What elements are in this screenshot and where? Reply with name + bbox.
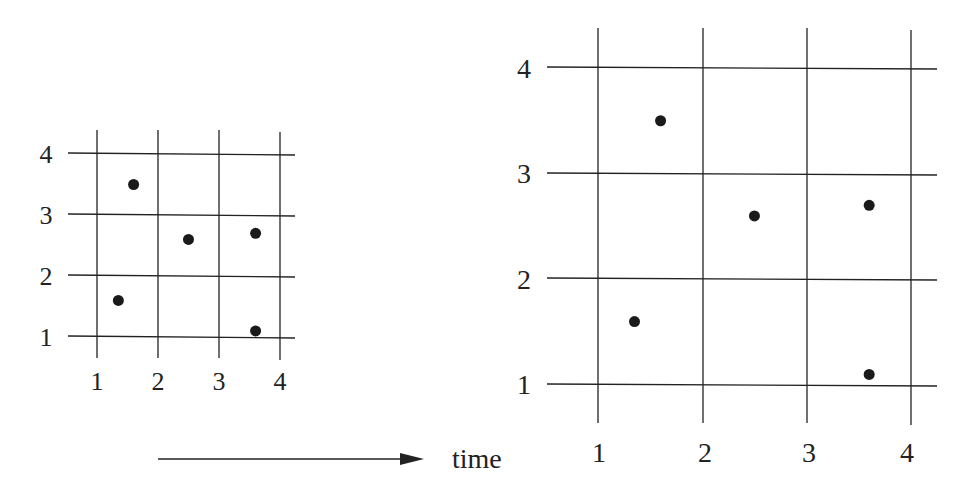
x-tick-label: 2 bbox=[152, 367, 165, 396]
y-tick-label: 1 bbox=[517, 369, 531, 400]
data-point bbox=[864, 369, 875, 380]
x-tick-label: 1 bbox=[91, 367, 104, 396]
y-tick-label: 2 bbox=[40, 262, 53, 291]
x-tick-label: 4 bbox=[900, 437, 914, 468]
data-point bbox=[128, 179, 139, 190]
data-point bbox=[183, 234, 194, 245]
small-grid-vertical-lines bbox=[97, 130, 280, 360]
data-point bbox=[250, 325, 261, 336]
time-label: time bbox=[452, 443, 502, 474]
x-tick-label: 3 bbox=[213, 367, 226, 396]
time-arrow: time bbox=[158, 443, 502, 474]
data-point bbox=[250, 228, 261, 239]
arrow-head-icon bbox=[400, 453, 424, 465]
large-grid-points bbox=[629, 115, 875, 380]
x-tick-label: 3 bbox=[802, 437, 816, 468]
data-point bbox=[655, 115, 666, 126]
y-tick-label: 3 bbox=[517, 158, 531, 189]
small-grid-x-ticks: 1 2 3 4 bbox=[91, 367, 287, 396]
x-tick-label: 1 bbox=[592, 437, 606, 468]
time-scaling-diagram: 4 3 2 1 1 2 3 4 4 3 2 1 bbox=[0, 0, 973, 491]
small-grid-panel: 4 3 2 1 1 2 3 4 bbox=[40, 130, 296, 396]
y-tick-label: 2 bbox=[517, 264, 531, 295]
small-grid-points bbox=[113, 179, 261, 336]
data-point bbox=[113, 295, 124, 306]
data-point bbox=[864, 200, 875, 211]
large-grid-vertical-lines bbox=[598, 28, 911, 425]
data-point bbox=[749, 210, 760, 221]
y-tick-label: 1 bbox=[40, 323, 53, 352]
y-tick-label: 3 bbox=[40, 201, 53, 230]
y-tick-label: 4 bbox=[40, 140, 53, 169]
x-tick-label: 4 bbox=[274, 367, 287, 396]
large-grid-x-ticks: 1 2 3 4 bbox=[592, 437, 914, 468]
x-tick-label: 2 bbox=[698, 437, 712, 468]
large-grid-horizontal-lines bbox=[547, 67, 937, 386]
small-grid-y-ticks: 4 3 2 1 bbox=[40, 140, 53, 352]
small-grid-horizontal-lines bbox=[68, 153, 295, 338]
y-tick-label: 4 bbox=[517, 53, 531, 84]
large-grid-panel: 4 3 2 1 1 2 3 4 bbox=[517, 28, 937, 468]
large-grid-y-ticks: 4 3 2 1 bbox=[517, 53, 531, 400]
data-point bbox=[629, 316, 640, 327]
